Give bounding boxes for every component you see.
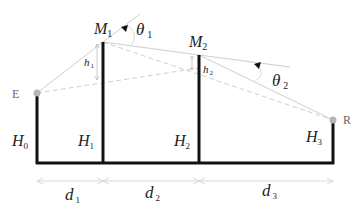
transmitter-dot-icon <box>34 90 41 97</box>
dashed-lines <box>37 42 333 120</box>
label-d2: d2 <box>145 183 160 203</box>
label-theta2: θ2 <box>272 71 288 91</box>
label-h2-height: H2 <box>173 132 190 151</box>
h-arrows <box>95 44 194 80</box>
ray-m2-extension <box>199 55 290 67</box>
ray-lines <box>37 14 333 120</box>
dashed-m1-to-r <box>103 42 333 120</box>
label-d3: d3 <box>262 181 278 201</box>
theta1-arrowhead-icon <box>121 25 128 32</box>
label-d1: d1 <box>65 185 80 205</box>
label-h2: h2 <box>203 63 214 77</box>
label-e: E <box>12 87 19 101</box>
ray-m1-to-m2 <box>103 42 199 55</box>
label-m1: M1 <box>93 20 112 39</box>
label-h0: H0 <box>11 132 29 151</box>
label-m2: M2 <box>188 33 207 52</box>
knife-edge-diffraction-diagram: E R M1 M2 θ1 θ2 h1 h2 H0 H1 H2 H3 d1 d2 … <box>0 0 364 212</box>
label-r: R <box>343 113 351 127</box>
receiver-dot-icon <box>330 117 337 124</box>
label-h1: h1 <box>84 56 95 70</box>
label-h1-height: H1 <box>77 132 94 151</box>
ray-m2-to-r <box>199 55 333 120</box>
dashed-e-to-m2 <box>37 68 199 93</box>
label-theta1: θ1 <box>136 20 152 40</box>
theta1-arc <box>127 24 135 45</box>
label-h3-height: H3 <box>305 128 323 147</box>
distance-arrows <box>37 178 333 184</box>
